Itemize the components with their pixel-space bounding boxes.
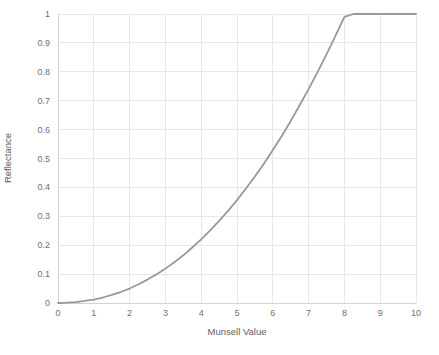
- x-axis-title: Munsell Value: [58, 327, 416, 337]
- x-tick-label: 0: [38, 309, 78, 318]
- x-tick-label: 6: [253, 309, 293, 318]
- x-tick-label: 1: [74, 309, 114, 318]
- reflectance-curve-path: [58, 14, 416, 303]
- y-tick-label: 0: [4, 299, 50, 308]
- y-axis-title: Reflectance: [3, 133, 13, 183]
- reflectance-curve: [58, 14, 416, 303]
- x-tick-label: 2: [110, 309, 150, 318]
- x-tick-label: 7: [289, 309, 329, 318]
- x-tick-label: 9: [360, 309, 400, 318]
- y-tick-label: 0.1: [4, 270, 50, 279]
- x-tick-label: 4: [181, 309, 221, 318]
- x-tick-label: 5: [217, 309, 257, 318]
- y-tick-label: 1: [4, 10, 50, 19]
- x-tick-label: 10: [396, 309, 436, 318]
- plot-area: [58, 14, 416, 303]
- y-tick-label: 0.4: [4, 183, 50, 192]
- x-tick-label: 8: [324, 309, 364, 318]
- y-tick-label: 0.7: [4, 96, 50, 105]
- x-tick-label: 3: [145, 309, 185, 318]
- y-tick-label: 0.9: [4, 38, 50, 47]
- x-axis-tick-labels: 012345678910: [58, 309, 416, 323]
- y-tick-label: 0.2: [4, 241, 50, 250]
- y-tick-label: 0.8: [4, 67, 50, 76]
- reflectance-vs-munsell-value-chart: 00.10.20.30.40.50.60.70.80.91 0123456789…: [0, 0, 439, 355]
- y-tick-label: 0.3: [4, 212, 50, 221]
